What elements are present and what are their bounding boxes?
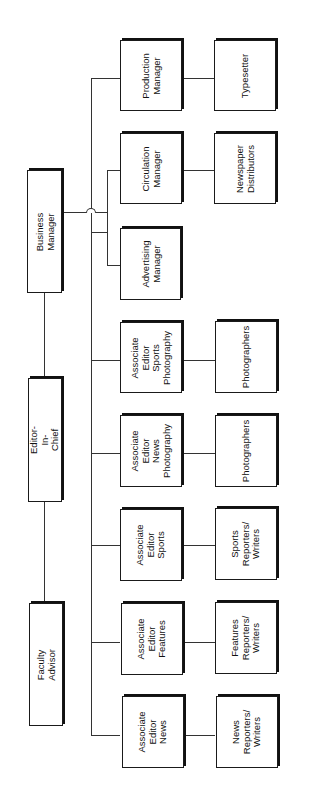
node-label: Circulation Manager [141, 146, 162, 191]
node-photographers-news: Photographers [215, 415, 277, 487]
connector-main-bus [91, 78, 92, 735]
node-assoc-editor-features: Associate Editor Features [121, 603, 183, 675]
connector-sub-advertising [107, 265, 120, 266]
connector-bus-news [91, 735, 120, 736]
connector-sports-writers [182, 545, 215, 546]
node-newspaper-distributors: Newspaper Distributors [214, 133, 276, 204]
node-label: Photographers [241, 326, 252, 388]
connector-bus-features [91, 642, 120, 643]
node-label: Advertising Manager [140, 241, 161, 288]
node-label: Production Manager [141, 53, 162, 98]
node-label: Newspaper Distributors [235, 144, 256, 192]
node-label: Typesetter [240, 53, 251, 97]
connector-business-bus [107, 170, 108, 265]
connector-production-typesetter [182, 78, 214, 79]
node-circulation-manager: Circulation Manager [120, 133, 182, 204]
node-business-manager: Business Manager [27, 170, 62, 293]
node-assoc-editor-news: Associate Editor News [122, 696, 184, 768]
connector-bus-news-photo [91, 453, 120, 454]
connector-bus-sports [91, 545, 120, 546]
node-editor-in-chief: Editor-In-Chief [28, 378, 62, 502]
node-label: Business Manager [34, 212, 55, 251]
node-advertising-manager: Advertising Manager [120, 228, 181, 300]
node-production-manager: Production Manager [120, 40, 182, 111]
line-crossing-hop [86, 208, 96, 213]
connector-advisor-editor [44, 502, 45, 603]
node-label: Faculty Advisor [36, 649, 57, 681]
connector-business-to-sub-a [62, 212, 86, 213]
connector-circulation-distributors [182, 170, 214, 171]
node-label: Features Reporters/ Writers [230, 616, 262, 660]
node-assoc-editor-sports: Associate Editor Sports [120, 509, 182, 581]
node-assoc-editor-sports-photography: Associate Editor Sports Photography [120, 322, 182, 393]
connector-bus-sports-photo [91, 360, 120, 361]
node-sports-reporters-writers: Sports Reporters/ Writers [215, 508, 277, 580]
connector-features-writers [182, 642, 215, 643]
node-news-reporters-writers: News Reporters/ Writers [216, 696, 278, 768]
node-assoc-editor-news-photography: Associate Editor News Photography [120, 415, 182, 487]
connector-sub-circulation [107, 170, 120, 171]
connector-editor-business [44, 293, 45, 378]
node-label: Associate Editor Sports [135, 524, 167, 565]
connector-news-writers [182, 735, 215, 736]
node-label: News Reporters/ Writers [231, 710, 263, 754]
node-label: Sports Reporters/ Writers [230, 522, 262, 566]
connector-newsphoto-photographers [182, 453, 215, 454]
node-label: Editor-In-Chief [29, 426, 61, 454]
node-photographers-sports: Photographers [215, 321, 277, 393]
node-faculty-advisor: Faculty Advisor [29, 603, 63, 726]
node-label: Associate Editor News Photography [130, 424, 172, 478]
node-typesetter: Typesetter [214, 40, 276, 111]
connector-bus-production [91, 78, 120, 79]
node-label: Associate Editor Features [136, 618, 168, 659]
node-features-reporters-writers: Features Reporters/ Writers [215, 602, 277, 674]
node-label: Associate Editor Sports Photography [130, 331, 172, 385]
connector-bus-business-sub [91, 232, 108, 233]
connector-sportsphoto-photographers [182, 360, 215, 361]
node-label: Photographers [241, 420, 252, 482]
connector-business-to-sub-b [96, 212, 107, 213]
node-label: Associate Editor News [137, 711, 169, 752]
